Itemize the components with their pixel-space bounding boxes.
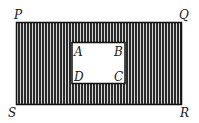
vertex-label-s: S: [8, 106, 16, 120]
vertex-label-q: Q: [179, 8, 189, 22]
vertex-label-r: R: [179, 106, 189, 120]
vertex-label-p: P: [13, 8, 23, 22]
diagram: P Q R S A B C D: [0, 0, 199, 123]
vertex-label-b: B: [113, 45, 123, 59]
vertex-label-a: A: [73, 45, 83, 59]
vertex-label-d: D: [73, 70, 84, 84]
vertex-label-c: C: [114, 70, 123, 84]
